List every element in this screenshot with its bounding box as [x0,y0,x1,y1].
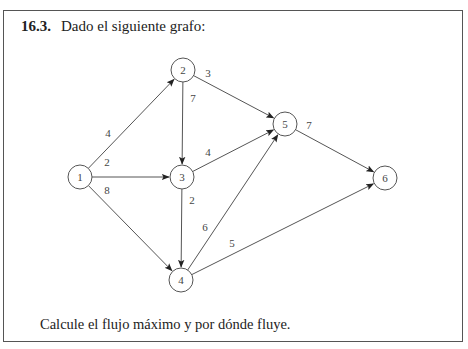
edge-capacity-label: 3 [205,67,211,79]
nodes-layer: 123456 [68,58,397,292]
edge-5-6 [296,130,374,172]
node-label: 6 [382,172,388,184]
edge-3-4 [181,189,182,267]
flow-network-diagram: 4287342657 123456 [0,0,468,349]
edge-1-4 [88,186,171,271]
node-label: 4 [178,274,184,286]
edge-capacity-label: 8 [104,184,110,196]
node-label: 3 [179,171,185,183]
edge-capacity-label: 5 [229,237,235,249]
node-4: 4 [169,268,193,292]
node-3: 3 [170,165,194,189]
edges-layer: 4287342657 [88,67,373,275]
node-label: 1 [77,171,83,183]
node-1: 1 [68,165,92,189]
node-5: 5 [273,112,297,136]
edge-capacity-label: 7 [190,92,196,104]
edge-2-5 [194,76,274,118]
edge-capacity-label: 2 [189,194,195,206]
edge-capacity-label: 4 [105,127,111,139]
node-label: 5 [282,118,288,130]
edge-capacity-label: 6 [202,221,208,233]
edge-1-2 [88,79,174,168]
edge-capacity-label: 2 [104,156,110,168]
edge-2-3 [182,82,183,164]
problem-question: Calcule el flujo máximo y por dónde fluy… [40,316,290,333]
edge-4-5 [188,135,278,270]
edge-capacity-label: 7 [306,119,312,131]
edge-capacity-label: 4 [205,146,211,158]
node-label: 2 [180,64,186,76]
edge-4-6 [192,184,374,275]
node-2: 2 [171,58,195,82]
node-6: 6 [373,166,397,190]
